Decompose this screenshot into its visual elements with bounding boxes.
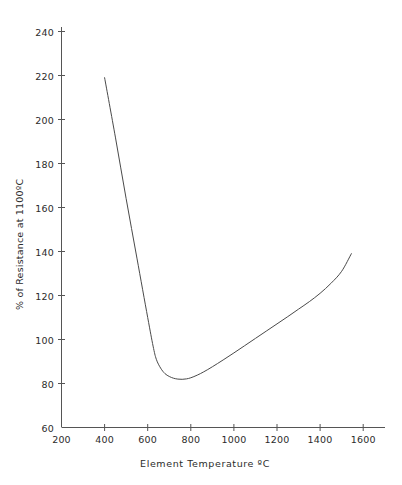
x-axis-tick-label: 1400 [308, 434, 333, 445]
x-axis-tick-label: 400 [95, 434, 114, 445]
y-axis-title: % of Resistance at 1100ºC [14, 179, 25, 310]
axes-group [62, 27, 386, 428]
y-axis-tick-label: 200 [24, 114, 54, 125]
y-axis-tick-label: 160 [24, 202, 54, 213]
x-axis-tick-label: 1600 [351, 434, 376, 445]
chart-canvas [0, 0, 402, 485]
data-line-resistance [105, 78, 352, 380]
y-axis-tick-label: 80 [24, 378, 54, 389]
x-axis-tick-label: 600 [138, 434, 157, 445]
y-axis-tick-label: 240 [24, 26, 54, 37]
y-axis-tick-label: 220 [24, 70, 54, 81]
y-axis-tick-label: 180 [24, 158, 54, 169]
x-axis-tick-label: 800 [181, 434, 200, 445]
data-series-group [105, 78, 352, 380]
x-axis-tick-label: 1000 [221, 434, 246, 445]
y-axis-tick-label: 140 [24, 246, 54, 257]
x-axis-tick-label: 200 [52, 434, 71, 445]
y-axis-tick-label: 60 [24, 422, 54, 433]
y-axis-tick-label: 100 [24, 334, 54, 345]
x-axis-tick-label: 1200 [265, 434, 290, 445]
x-axis-title: Element Temperature ºC [140, 458, 270, 469]
y-axis-tick-label: 120 [24, 290, 54, 301]
chart-container: 6080100120140160180200220240 20040060080… [0, 0, 402, 485]
